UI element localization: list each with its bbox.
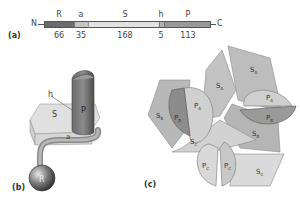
panel-b-label: (b) [12,183,25,192]
segment-h-length: 5 [158,32,163,40]
trimer-illustration: SA SA SB SB SC SC PA PB PA PB PC PC [120,40,300,199]
segment-s-name: S [122,11,127,19]
n-terminus-label: N [31,20,37,28]
c-linker [211,24,216,25]
svg-text:P: P [81,106,86,115]
segment-r-name: R [56,11,62,19]
panel-a-label: (a) [8,31,21,40]
segment-s [88,21,159,28]
svg-text:S: S [52,110,57,119]
segment-h-name: h [158,11,163,19]
svg-text:h: h [48,90,53,99]
segment-r [44,21,74,28]
svg-text:R: R [39,175,45,184]
c-terminus-label: C [217,20,223,28]
segment-a-name: a [79,11,84,19]
segment-p-name: P [186,11,191,19]
segment-s-length: 168 [117,32,132,40]
segment-p-length: 113 [180,32,195,40]
segment-a [74,21,88,28]
panel-c-label: (c) [144,180,156,189]
segment-p [164,21,211,28]
p-domain-shape [72,71,94,135]
segment-r-length: 66 [54,32,64,40]
svg-text:a: a [66,133,70,141]
segment-a-length: 35 [76,32,86,40]
subunit-illustration: h S P a R [0,60,110,199]
pc-left-shape [197,144,218,186]
